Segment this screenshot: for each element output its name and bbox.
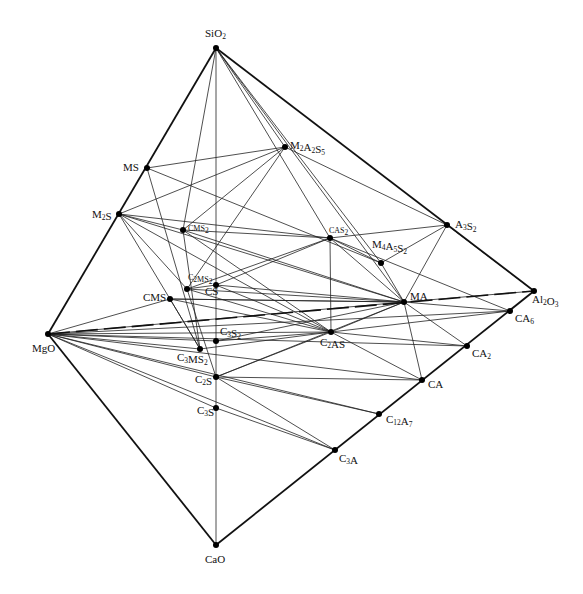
phase-label-MA: MA [410,290,428,302]
tie-line-MgO-C3S [48,334,216,408]
phase-point-C3A [332,447,338,453]
phase-point-C2AS [328,329,334,335]
phase-point-CA2 [464,343,470,349]
phase-point-SiO2 [213,45,219,51]
tie-line-MgO-C2AS [48,332,331,334]
phase-label-M2S: M2S [92,208,112,222]
phase-point-CaO [213,542,219,548]
tie-line-CAS2-CS [216,238,330,285]
phase-label-C2AS: C2AS [320,336,345,350]
phase-point-MgO [45,331,51,337]
tie-line-C2S-CA [216,377,422,380]
tie-line-M2A2S5-A3S2 [285,147,447,225]
phase-label-CS: CS [205,285,218,297]
tetrahedron-edge-MgO-CaO [48,334,216,545]
tie-line-C3S2-MA [216,302,404,341]
tie-line-SiO2-CAS2 [216,48,330,238]
phase-label-MgO: MgO [32,342,55,354]
phase-label-M4A5S2: M4A5S2 [372,238,407,256]
tie-line-M2S-M2A2S5 [119,147,285,214]
tie-line-CMS-C3MS2 [170,299,200,349]
phase-point-A3S2 [444,222,450,228]
tie-line-MA-CA6 [404,302,510,311]
phase-point-CAS2 [327,235,333,241]
phase-label-CA2: CA2 [472,347,491,361]
phase-label-CaO: CaO [205,553,225,565]
phase-point-M2S [116,211,122,217]
tie-line-MA-CA2 [404,302,467,346]
phase-label-CA: CA [428,378,443,390]
tie-line-MA-C2MS2 [187,289,404,302]
phase-label-CA6: CA6 [515,312,534,326]
phase-label-SiO2: SiO2 [205,27,226,41]
tie-line-M2S-CMS2 [119,214,183,230]
tie-line-SiO2-M2A2S5 [216,48,285,147]
phase-label-CMS2: CMS2 [188,224,209,235]
phase-label-C3A: C3A [339,452,358,466]
phase-point-C2S [213,374,219,380]
tetrahedron-edge-CaO-Al2O3 [216,291,534,545]
tie-line-CAS2-C2AS [330,238,331,332]
tie-line-SiO2-MA [216,48,404,302]
phase-point-M4A5S2 [378,260,384,266]
phase-label-C3S2: C3S2 [220,325,241,341]
phase-label-Al2O3: Al2O3 [532,293,559,309]
phase-diagram: SiO2MgOCaOAl2O3MSM2SM2A2S5A3S2CMS2CAS2M4… [0,0,583,594]
tetrahedron-edge-SiO2-MgO [48,48,216,334]
phase-label-CAS2: CAS2 [329,226,349,237]
phase-point-CMS2 [180,227,186,233]
phase-label-C3MS2: C3MS2 [177,351,208,367]
phase-label-CMS: CMS [143,291,166,303]
phase-label-M2A2S5: M2A2S5 [290,139,325,157]
phase-point-CA [419,377,425,383]
tie-line-C2AS-CA6 [331,311,510,332]
phase-point-CMS [167,296,173,302]
tie-line-M2S-C2AS [119,214,331,332]
phase-point-M2A2S5 [282,144,288,150]
tie-line-C2S-C3A [216,377,335,450]
phase-point-MA [401,299,407,305]
phase-label-C12A7: C12A7 [386,413,413,429]
phase-point-C3MS2 [197,346,203,352]
phase-point-MS [144,165,150,171]
phase-point-CA6 [507,308,513,314]
phase-point-C2MS2 [184,286,190,292]
phase-label-C2S: C2S [195,373,212,387]
phase-point-C12A7 [376,411,382,417]
phase-point-C3S2 [213,338,219,344]
tie-line-C3S-C3A [216,408,335,450]
phase-label-A3S2: A3S2 [455,218,477,234]
tie-line-M2S-C2MS2 [119,214,187,289]
phase-label-C3S: C3S [197,404,214,418]
phase-label-MS: MS [123,161,139,173]
